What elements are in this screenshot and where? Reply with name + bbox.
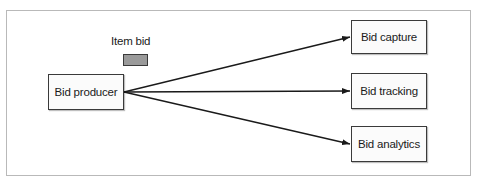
- bid-tracking-label: Bid tracking: [360, 85, 418, 97]
- item-bid-message-icon: [123, 54, 148, 66]
- bid-producer-label: Bid producer: [55, 86, 118, 98]
- bid-producer-node: Bid producer: [48, 74, 124, 110]
- edge-to-bid-capture: [124, 37, 350, 92]
- bid-tracking-node: Bid tracking: [351, 73, 427, 109]
- bid-analytics-node: Bid analytics: [351, 126, 427, 162]
- edge-to-bid-tracking: [124, 91, 350, 92]
- item-bid-label: Item bid: [111, 35, 150, 47]
- bid-capture-node: Bid capture: [351, 20, 427, 54]
- bid-capture-label: Bid capture: [361, 31, 417, 43]
- bid-analytics-label: Bid analytics: [358, 138, 420, 150]
- edge-to-bid-analytics: [124, 92, 350, 144]
